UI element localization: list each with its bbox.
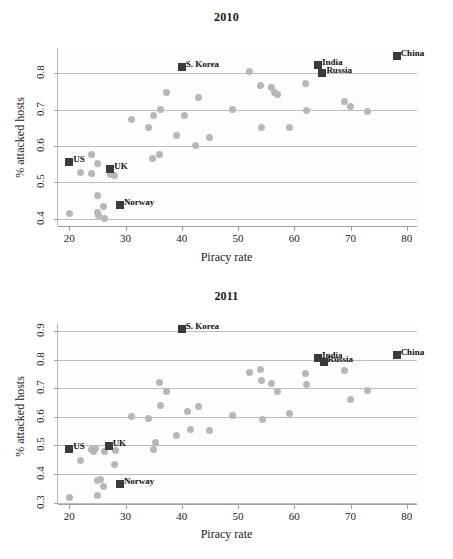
y-tick-label: 0.7 xyxy=(34,372,46,402)
data-point xyxy=(88,151,95,158)
highlight-marker xyxy=(393,351,401,359)
x-axis-title-2011: Piracy rate xyxy=(0,527,453,542)
data-point xyxy=(94,160,101,167)
y-tick-label: 0.4 xyxy=(34,203,46,233)
x-tick-mark xyxy=(182,505,183,509)
data-point xyxy=(303,381,310,388)
y-tick-label: 0.7 xyxy=(34,94,46,124)
y-axis-title-2011: % attacked hosts xyxy=(13,362,28,472)
x-tick-label: 40 xyxy=(167,510,197,522)
data-point xyxy=(66,494,73,501)
data-point xyxy=(100,203,107,210)
data-point xyxy=(258,124,265,131)
y-tick-label: 0.8 xyxy=(34,57,46,87)
highlight-marker xyxy=(116,480,124,488)
data-point xyxy=(302,370,309,377)
y-tick-mark xyxy=(54,182,58,183)
data-point xyxy=(163,388,170,395)
highlight-marker xyxy=(393,52,401,60)
highlight-label: S. Korea xyxy=(186,60,219,69)
x-tick-mark xyxy=(407,227,408,231)
plot-background-2010 xyxy=(58,48,417,226)
highlight-label: China xyxy=(401,348,425,357)
y-tick-mark xyxy=(54,445,58,446)
gridline-y xyxy=(58,474,417,475)
highlight-label: S. Korea xyxy=(186,322,219,331)
highlight-label: US xyxy=(73,442,85,451)
highlight-marker xyxy=(318,69,326,77)
gridline-y xyxy=(58,219,417,220)
data-point xyxy=(152,439,159,446)
gridline-y xyxy=(58,73,417,74)
data-point xyxy=(195,94,202,101)
data-point xyxy=(184,408,191,415)
y-tick-label: 0.8 xyxy=(34,344,46,374)
x-tick-label: 70 xyxy=(336,232,366,244)
y-tick-mark xyxy=(54,110,58,111)
data-point xyxy=(66,210,73,217)
y-tick-label: 0.6 xyxy=(34,130,46,160)
highlight-label: Norway xyxy=(124,198,155,207)
x-tick-label: 80 xyxy=(392,232,422,244)
plot-area-2011: 0.30.40.50.60.70.80.920304050607080USUKN… xyxy=(57,324,417,504)
x-tick-mark xyxy=(238,505,239,509)
gridline-y xyxy=(58,331,417,332)
highlight-label: Russia xyxy=(328,355,354,364)
y-tick-label: 0.6 xyxy=(34,401,46,431)
x-tick-mark xyxy=(407,505,408,509)
x-tick-mark xyxy=(294,227,295,231)
data-point xyxy=(274,91,281,98)
data-point xyxy=(246,68,253,75)
highlight-marker xyxy=(106,165,114,173)
x-tick-mark xyxy=(126,227,127,231)
highlight-label: UK xyxy=(113,439,127,448)
chart-title-2010: 2010 xyxy=(0,10,453,25)
y-tick-label: 0.9 xyxy=(34,315,46,345)
data-point xyxy=(128,413,135,420)
data-point xyxy=(97,476,104,483)
gridline-y xyxy=(58,360,417,361)
x-tick-label: 60 xyxy=(279,232,309,244)
data-point xyxy=(364,387,371,394)
highlight-marker xyxy=(116,201,124,209)
y-tick-label: 0.5 xyxy=(34,166,46,196)
data-point xyxy=(187,426,194,433)
x-tick-label: 70 xyxy=(336,510,366,522)
y-tick-mark xyxy=(54,331,58,332)
x-tick-label: 30 xyxy=(111,510,141,522)
x-axis-title-2010: Piracy rate xyxy=(0,250,453,265)
data-point xyxy=(257,366,264,373)
data-point xyxy=(101,215,108,222)
x-tick-mark xyxy=(238,227,239,231)
data-point xyxy=(94,192,101,199)
gridline-y xyxy=(58,417,417,418)
data-point xyxy=(77,169,84,176)
plot-area-2010: 0.40.50.60.70.820304050607080USUKNorwayS… xyxy=(57,48,417,226)
highlight-label: Russia xyxy=(326,66,352,75)
data-point xyxy=(303,107,310,114)
data-point xyxy=(257,82,264,89)
y-tick-mark xyxy=(54,360,58,361)
data-point xyxy=(94,492,101,499)
highlight-marker xyxy=(178,325,186,333)
x-tick-mark xyxy=(351,505,352,509)
highlight-label: UK xyxy=(114,162,128,171)
data-point xyxy=(111,172,118,179)
x-tick-label: 30 xyxy=(111,232,141,244)
y-tick-label: 0.4 xyxy=(34,458,46,488)
chart-panel-2010: 2010 % attacked hosts 0.40.50.60.70.8203… xyxy=(0,0,453,280)
x-tick-mark xyxy=(351,227,352,231)
y-tick-mark xyxy=(54,388,58,389)
y-axis-title-2010: % attacked hosts xyxy=(13,83,28,193)
y-tick-label: 0.5 xyxy=(34,429,46,459)
highlight-marker xyxy=(105,442,113,450)
data-point xyxy=(92,445,99,452)
highlight-marker xyxy=(178,63,186,71)
plot-background-2011 xyxy=(58,324,417,504)
data-point xyxy=(111,461,118,468)
x-tick-label: 50 xyxy=(223,510,253,522)
chart-title-2011: 2011 xyxy=(0,289,453,304)
highlight-label: Norway xyxy=(124,477,155,486)
y-tick-mark xyxy=(54,474,58,475)
y-tick-label: 0.3 xyxy=(34,487,46,517)
